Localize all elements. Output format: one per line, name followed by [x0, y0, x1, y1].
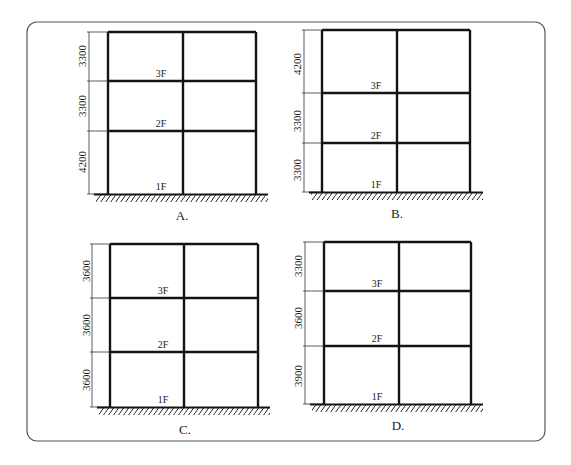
floor-label-3f: 3F — [158, 285, 169, 296]
dimension-line — [302, 30, 322, 192]
storey-height-3: 4200 — [291, 53, 303, 76]
dimension-line — [90, 244, 110, 407]
panel-a: 3300 3300 4200 3F 2F 1F A. — [76, 32, 268, 223]
storey-height-3: 3600 — [80, 260, 92, 283]
storey-height-2: 3600 — [292, 307, 304, 330]
floor-label-1f: 1F — [372, 391, 383, 402]
ground-hatch — [99, 408, 270, 415]
storey-height-1: 3300 — [291, 159, 303, 182]
floor-label-2f: 2F — [372, 333, 383, 344]
dimension-line — [87, 32, 108, 194]
floor-label-1f: 1F — [158, 394, 169, 405]
floor-label-3f: 3F — [372, 278, 383, 289]
storey-height-3: 3300 — [76, 45, 88, 68]
ground-hatch — [312, 405, 483, 412]
storey-height-2: 3300 — [291, 110, 303, 133]
panel-c: 3600 3600 3600 3F 2F 1F C. — [80, 244, 270, 437]
floor-label-2f: 2F — [156, 118, 167, 129]
panel-d: 3300 3600 3900 3F 2F 1F D. — [292, 242, 483, 433]
floor-label-2f: 2F — [371, 130, 382, 141]
figure-canvas: 3300 3300 4200 3F 2F 1F A. 4200 3300 330… — [0, 0, 571, 465]
panel-caption: D. — [392, 418, 405, 433]
panel-caption: C. — [179, 422, 191, 437]
storey-height-1: 3600 — [80, 369, 92, 392]
storey-height-2: 3600 — [80, 314, 92, 337]
frame — [108, 32, 256, 194]
storey-height-1: 3900 — [292, 365, 304, 388]
storey-height-3: 3300 — [292, 255, 304, 278]
ground-hatch — [311, 193, 483, 200]
panel-caption: A. — [176, 208, 189, 223]
floor-label-1f: 1F — [156, 181, 167, 192]
floor-label-3f: 3F — [371, 80, 382, 91]
panel-caption: B. — [391, 206, 403, 221]
ground-hatch — [96, 195, 268, 202]
frame — [324, 242, 471, 404]
storey-height-1: 4200 — [76, 151, 88, 174]
floor-label-3f: 3F — [156, 68, 167, 79]
storey-height-2: 3300 — [76, 95, 88, 118]
floor-label-1f: 1F — [371, 179, 382, 190]
frame — [322, 30, 470, 192]
dimension-line — [303, 242, 324, 404]
panel-b: 4200 3300 3300 3F 2F 1F B. — [291, 30, 483, 221]
frame — [110, 244, 258, 407]
floor-label-2f: 2F — [158, 339, 169, 350]
figure-border — [27, 22, 545, 441]
